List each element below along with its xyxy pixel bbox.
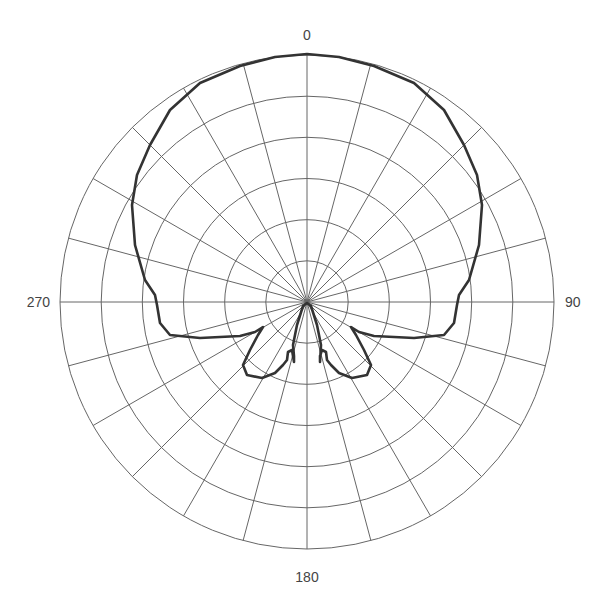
grid-spoke (93, 179, 307, 303)
angle-label-90: 90 (565, 294, 581, 310)
grid-spoke (307, 179, 521, 303)
angle-label-180: 180 (295, 569, 319, 585)
grid-spoke (132, 127, 307, 302)
grid-spoke (307, 88, 431, 302)
polar-chart: 0 90 180 270 (0, 0, 603, 606)
angle-label-270: 270 (27, 294, 51, 310)
angle-label-0: 0 (303, 27, 311, 43)
grid-spoke (93, 302, 307, 426)
grid-spoke (307, 302, 521, 426)
grid-spoke (307, 127, 482, 302)
grid-spoke (184, 88, 308, 302)
grid-spoke (307, 302, 482, 477)
grid-spoke (132, 302, 307, 477)
